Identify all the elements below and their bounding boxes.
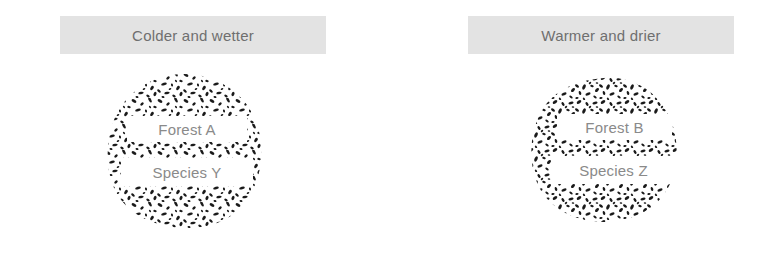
species-label-plate-z: Species Z — [551, 156, 676, 184]
scenario-banner-label: Colder and wetter — [132, 27, 254, 44]
scenario-colder-wetter: Colder and wetter — [60, 0, 326, 253]
species-label: Species Z — [579, 162, 648, 179]
scenario-warmer-drier: Warmer and drier — [468, 0, 734, 253]
species-label-plate-y: Species Y — [121, 158, 253, 186]
forest-patch-a-shape — [105, 72, 263, 230]
forest-patch-b: Forest B Species Z — [527, 76, 681, 224]
forest-patch-a: Forest A Species Y — [105, 72, 263, 230]
climate-scenario-diagram: Colder and wetter — [0, 0, 759, 253]
forest-label-plate-a: Forest A — [127, 116, 247, 142]
forest-label: Forest B — [585, 119, 643, 136]
species-label: Species Y — [152, 164, 221, 181]
scenario-banner-colder-wetter: Colder and wetter — [60, 16, 326, 54]
forest-label: Forest A — [158, 121, 215, 138]
scenario-banner-label: Warmer and drier — [541, 27, 660, 44]
scenario-banner-warmer-drier: Warmer and drier — [468, 16, 734, 54]
forest-patch-b-shape — [527, 76, 681, 224]
forest-label-plate-b: Forest B — [557, 114, 672, 140]
